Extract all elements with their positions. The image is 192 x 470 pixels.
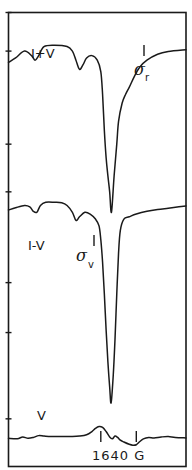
- trace-label-i-plus-v: I+V: [31, 46, 55, 61]
- sigma-v-subscript: v: [88, 259, 94, 270]
- trace-i-minus-v: [9, 202, 187, 403]
- sigma-v-symbol: σ: [76, 246, 88, 265]
- zeeman-spectra-figure: I+V σ r I-V σ v V 1640 G: [0, 0, 192, 470]
- trace-label-i-minus-v: I-V: [28, 238, 45, 253]
- sigma-v-annotation: σ v: [76, 235, 94, 270]
- trace-v: [9, 427, 187, 446]
- sigma-r-annotation: σ r: [134, 45, 150, 83]
- trace-label-v: V: [37, 408, 46, 423]
- field-strength-caption: 1640 G: [92, 448, 145, 463]
- trace-i-minus-plus-v: [9, 45, 187, 212]
- sigma-r-subscript: r: [145, 72, 150, 83]
